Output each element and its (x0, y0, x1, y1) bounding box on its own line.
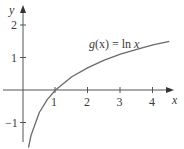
y-axis-arrow-icon (20, 5, 26, 13)
y-tick-label-1: 1 (11, 51, 17, 65)
x-tick-label-2: 2 (84, 95, 90, 109)
function-label-body: (x) = ln (95, 37, 134, 51)
x-tick-label-1: 1 (51, 95, 57, 109)
function-label: g(x) = ln x (89, 37, 140, 51)
y-tick-label-neg1: −1 (5, 116, 18, 130)
x-tick-label-3: 3 (117, 95, 123, 109)
function-label-x: x (133, 37, 140, 51)
x-tick-label-4: 4 (149, 95, 155, 109)
x-axis-label: x (171, 93, 178, 107)
ln-graph: y x 1 2 3 4 2 1 −1 g(x) = ln x (0, 0, 184, 149)
y-axis-label: y (8, 3, 15, 17)
y-tick-label-2: 2 (11, 18, 17, 32)
